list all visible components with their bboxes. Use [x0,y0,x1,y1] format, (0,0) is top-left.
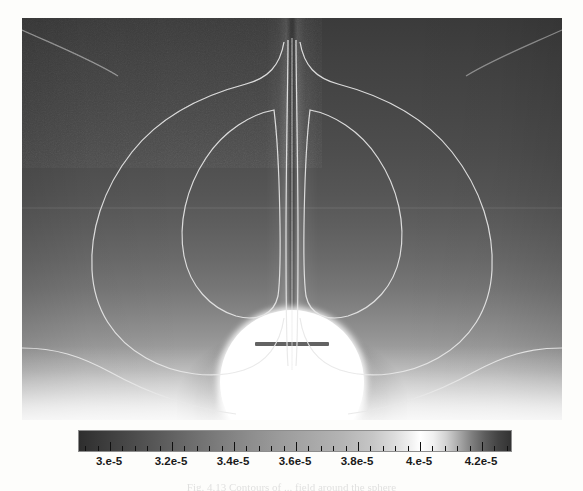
colorbar-minor-tick [370,446,371,451]
colorbar-tick-label: 3.6e-5 [279,455,312,467]
colorbar-minor-tick [122,446,123,451]
field-plot [22,18,562,420]
contour-inner-right [304,110,402,318]
colorbar-tick-labels: 3.e-53.2e-53.4e-53.6e-53.8e-54.e-54.2e-5 [78,455,512,473]
colorbar-minor-tick [321,446,322,451]
colorbar-tick-label: 4.e-5 [406,455,432,467]
colorbar-minor-tick [308,446,309,451]
colorbar-minor-tick [445,446,446,451]
figure-container: 3.e-53.2e-53.4e-53.6e-53.8e-54.e-54.2e-5… [0,0,583,491]
colorbar-minor-tick [333,446,334,451]
colorbar-minor-tick [147,446,148,451]
colorbar-minor-tick [271,446,272,451]
contour-top-left [22,30,118,76]
colorbar-minor-tick [98,446,99,451]
colorbar-minor-tick [457,446,458,451]
colorbar-major-tick [358,442,359,451]
contour-inner-left [182,110,280,318]
colorbar-tick-label: 3.2e-5 [155,455,188,467]
colorbar-minor-tick [432,446,433,451]
contour-line-group [22,18,562,420]
colorbar-minor-tick [470,446,471,451]
colorbar-minor-tick [494,446,495,451]
colorbar-minor-tick [85,446,86,451]
colorbar-tick-label: 3.e-5 [96,455,122,467]
colorbar-container: 3.e-53.2e-53.4e-53.6e-53.8e-54.e-54.2e-5 [78,430,512,473]
colorbar-minor-tick [197,446,198,451]
contour-plume-left [286,40,288,366]
contour-lower-left [22,348,236,414]
colorbar-major-tick [420,442,421,451]
colorbar-tick-label: 3.4e-5 [217,455,250,467]
colorbar-major-tick [172,442,173,451]
colorbar-minor-tick [246,446,247,451]
colorbar-minor-tick [209,446,210,451]
contour-outer-left [92,42,284,375]
colorbar-minor-tick [408,446,409,451]
colorbar-gradient [78,430,512,452]
colorbar-minor-tick [284,446,285,451]
colorbar-minor-tick [383,446,384,451]
colorbar-tick-label: 4.2e-5 [465,455,498,467]
colorbar-major-tick [110,442,111,451]
colorbar-tick-label: 3.8e-5 [341,455,374,467]
colorbar-minor-tick [395,446,396,451]
colorbar-minor-tick [346,446,347,451]
contour-lower-right [348,348,562,414]
colorbar-minor-tick [160,446,161,451]
contour-outer-right [300,42,492,375]
contour-top-right [466,30,562,76]
colorbar-major-tick [234,442,235,451]
colorbar-minor-tick [135,446,136,451]
colorbar-minor-tick [184,446,185,451]
colorbar-major-tick [296,442,297,451]
colorbar-minor-tick [507,446,508,451]
colorbar-minor-tick [259,446,260,451]
caption-text: Fig. 4.13 Contours of ... field around t… [0,482,583,491]
contour-plume-right [296,40,298,366]
colorbar-major-tick [482,442,483,451]
colorbar-minor-tick [222,446,223,451]
caption-strip: Fig. 4.13 Contours of ... field around t… [0,482,583,491]
